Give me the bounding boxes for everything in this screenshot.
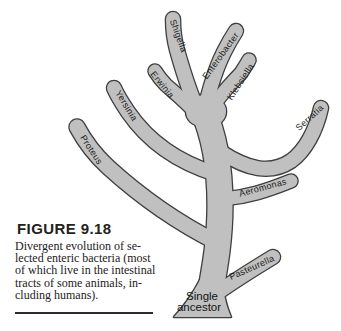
figure-panel: Shigella Enterobacter Klebsiella Erwinia…	[0, 0, 341, 331]
caption-divider-rule	[15, 312, 153, 314]
figure-caption-body: Divergent evolution of se- lected enteri…	[15, 240, 175, 301]
caption-line: cluding humans).	[15, 289, 175, 301]
root-label-line2: ancestor	[177, 302, 221, 314]
caption-line: of which live in the intestinal	[15, 264, 175, 276]
trunk-shape	[202, 108, 220, 300]
caption-line: tracts of some animals, in-	[15, 277, 175, 289]
figure-caption-title: FIGURE 9.18	[17, 220, 111, 237]
